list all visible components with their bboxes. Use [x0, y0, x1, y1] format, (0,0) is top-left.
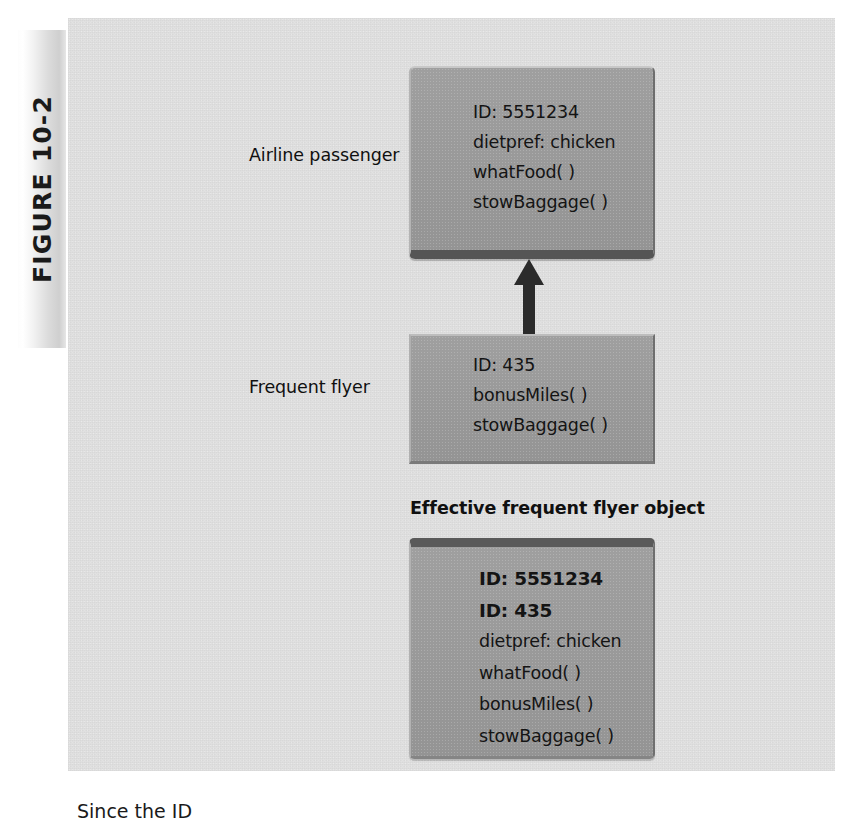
effective-object-members: ID: 5551234 ID: 435 dietpref: chicken wh…: [479, 563, 621, 752]
object-member-line: bonusMiles( ): [473, 380, 608, 410]
effective-object-label: Effective frequent flyer object: [410, 498, 705, 518]
arrow-up-icon: [514, 259, 544, 339]
airline-passenger-label: Airline passenger: [249, 145, 399, 165]
effective-frequent-flyer-box: ID: 5551234 ID: 435 dietpref: chicken wh…: [409, 538, 655, 759]
object-member-line: dietpref: chicken: [479, 626, 621, 658]
figure-caption: Since the ID: [77, 800, 192, 821]
figure-number-label: FIGURE 10-2: [28, 95, 57, 283]
frequent-flyer-box: ID: 435 bonusMiles( ) stowBaggage( ): [409, 334, 655, 464]
object-member-line: ID: 5551234: [473, 97, 615, 127]
object-member-line: ID: 435: [473, 350, 608, 380]
object-member-line: ID: 435: [479, 595, 621, 627]
frequent-flyer-label: Frequent flyer: [249, 377, 370, 397]
figure-number-tab: FIGURE 10-2: [18, 30, 66, 348]
object-member-line: dietpref: chicken: [473, 127, 615, 157]
object-member-line: whatFood( ): [479, 658, 621, 690]
object-member-line: stowBaggage( ): [473, 410, 608, 440]
airline-passenger-box: ID: 5551234 dietpref: chicken whatFood( …: [409, 66, 655, 259]
airline-passenger-members: ID: 5551234 dietpref: chicken whatFood( …: [473, 97, 615, 217]
object-member-line: whatFood( ): [473, 157, 615, 187]
object-member-line: ID: 5551234: [479, 563, 621, 595]
figure-canvas: FIGURE 10-2 ID: 5551234 dietpref: chicke…: [0, 0, 861, 821]
object-member-line: stowBaggage( ): [479, 721, 621, 753]
object-member-line: bonusMiles( ): [479, 689, 621, 721]
inheritance-arrow: [508, 259, 550, 339]
frequent-flyer-members: ID: 435 bonusMiles( ) stowBaggage( ): [473, 350, 608, 440]
object-member-line: stowBaggage( ): [473, 187, 615, 217]
